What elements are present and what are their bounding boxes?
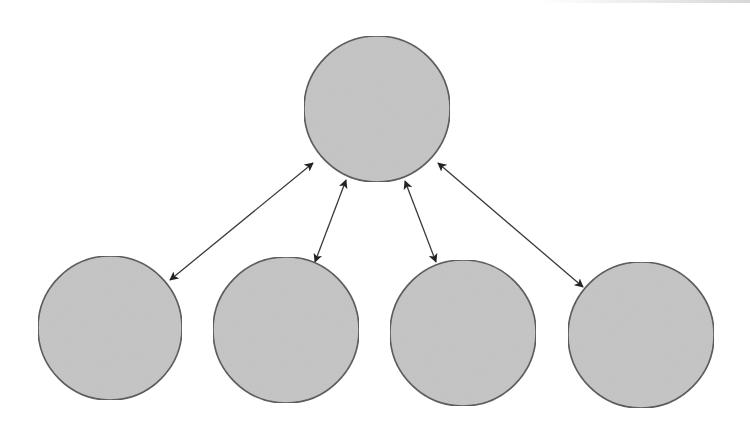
node-child-1 [38,256,182,400]
node-child-4 [568,262,714,408]
hub-spoke-diagram [0,0,750,436]
node-child-2 [213,257,359,403]
node-hub [304,36,450,182]
bidirectional-arrow-hub-child-2 [315,180,346,262]
node-child-3 [390,260,536,406]
bidirectional-arrow-hub-child-3 [405,181,436,262]
nodes-group [38,36,714,408]
